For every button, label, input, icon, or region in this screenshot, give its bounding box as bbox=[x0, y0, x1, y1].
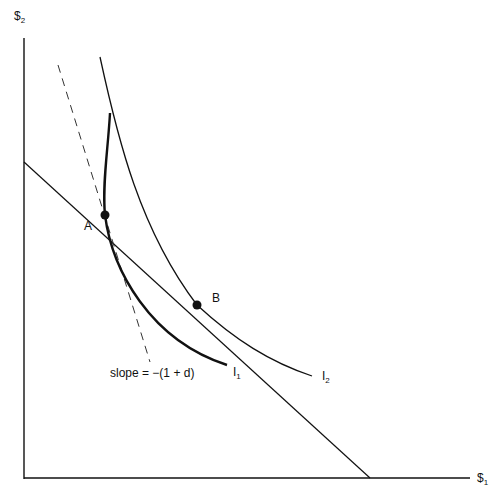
indifference-curve-i1 bbox=[104, 113, 227, 365]
point-b-label: B bbox=[212, 292, 220, 304]
budget-line bbox=[24, 162, 370, 478]
y-axis-label: $2 bbox=[14, 10, 25, 25]
curve-i2-label: I2 bbox=[322, 370, 330, 385]
point-b-marker bbox=[193, 301, 202, 310]
point-a-marker bbox=[101, 211, 110, 220]
x-axis-label: $1 bbox=[477, 472, 488, 487]
point-a-label: A bbox=[84, 220, 92, 232]
slope-annotation: slope = −(1 + d) bbox=[110, 367, 194, 379]
diagram-canvas bbox=[0, 0, 494, 493]
curve-i1-label: I1 bbox=[233, 366, 241, 381]
